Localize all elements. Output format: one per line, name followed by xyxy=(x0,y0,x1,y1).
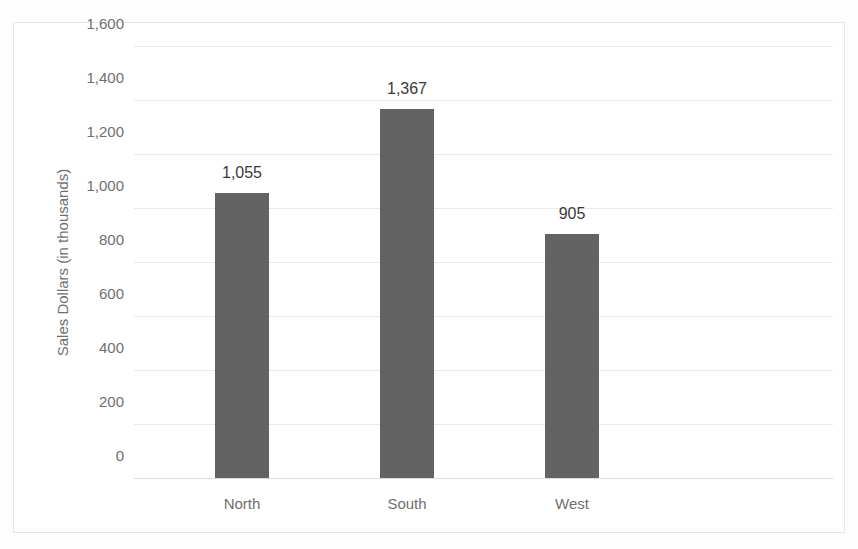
y-tick-label-200: 200 xyxy=(64,393,124,410)
y-tick-label-800: 800 xyxy=(64,231,124,248)
y-axis-title: Sales Dollars (in thousands) xyxy=(52,46,74,478)
plot-area: 1,055 1,367 905 xyxy=(134,46,833,478)
page-background: Sales Dollars (in thousands) 0 200 400 6… xyxy=(0,0,858,549)
y-tick-label-1600: 1,600 xyxy=(64,15,124,32)
y-tick-label-600: 600 xyxy=(64,285,124,302)
bar-value-label-north: 1,055 xyxy=(222,164,262,182)
x-axis-line xyxy=(134,478,833,479)
y-axis-title-label: Sales Dollars (in thousands) xyxy=(55,168,72,356)
chart-container[interactable]: Sales Dollars (in thousands) 0 200 400 6… xyxy=(13,22,845,533)
bar-value-label-south: 1,367 xyxy=(387,80,427,98)
bar-north[interactable] xyxy=(215,193,269,478)
y-tick-label-1000: 1,000 xyxy=(64,177,124,194)
y-tick-label-1200: 1,200 xyxy=(64,123,124,140)
y-tick-label-1400: 1,400 xyxy=(64,69,124,86)
gridline-1600 xyxy=(134,46,833,47)
x-tick-label-north: North xyxy=(224,495,261,512)
gridline-1400 xyxy=(134,100,833,101)
x-tick-label-south: South xyxy=(387,495,426,512)
y-tick-label-400: 400 xyxy=(64,339,124,356)
x-tick-label-west: West xyxy=(555,495,589,512)
gridline-1200 xyxy=(134,154,833,155)
bar-west[interactable] xyxy=(545,234,599,478)
bar-south[interactable] xyxy=(380,109,434,478)
y-tick-label-0: 0 xyxy=(64,447,124,464)
bar-value-label-west: 905 xyxy=(559,205,586,223)
